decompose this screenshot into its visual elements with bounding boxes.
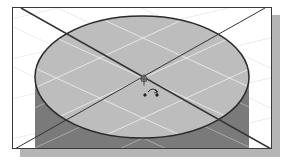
cylinder-drawing [13, 8, 272, 149]
graphics-viewport[interactable] [12, 7, 272, 149]
